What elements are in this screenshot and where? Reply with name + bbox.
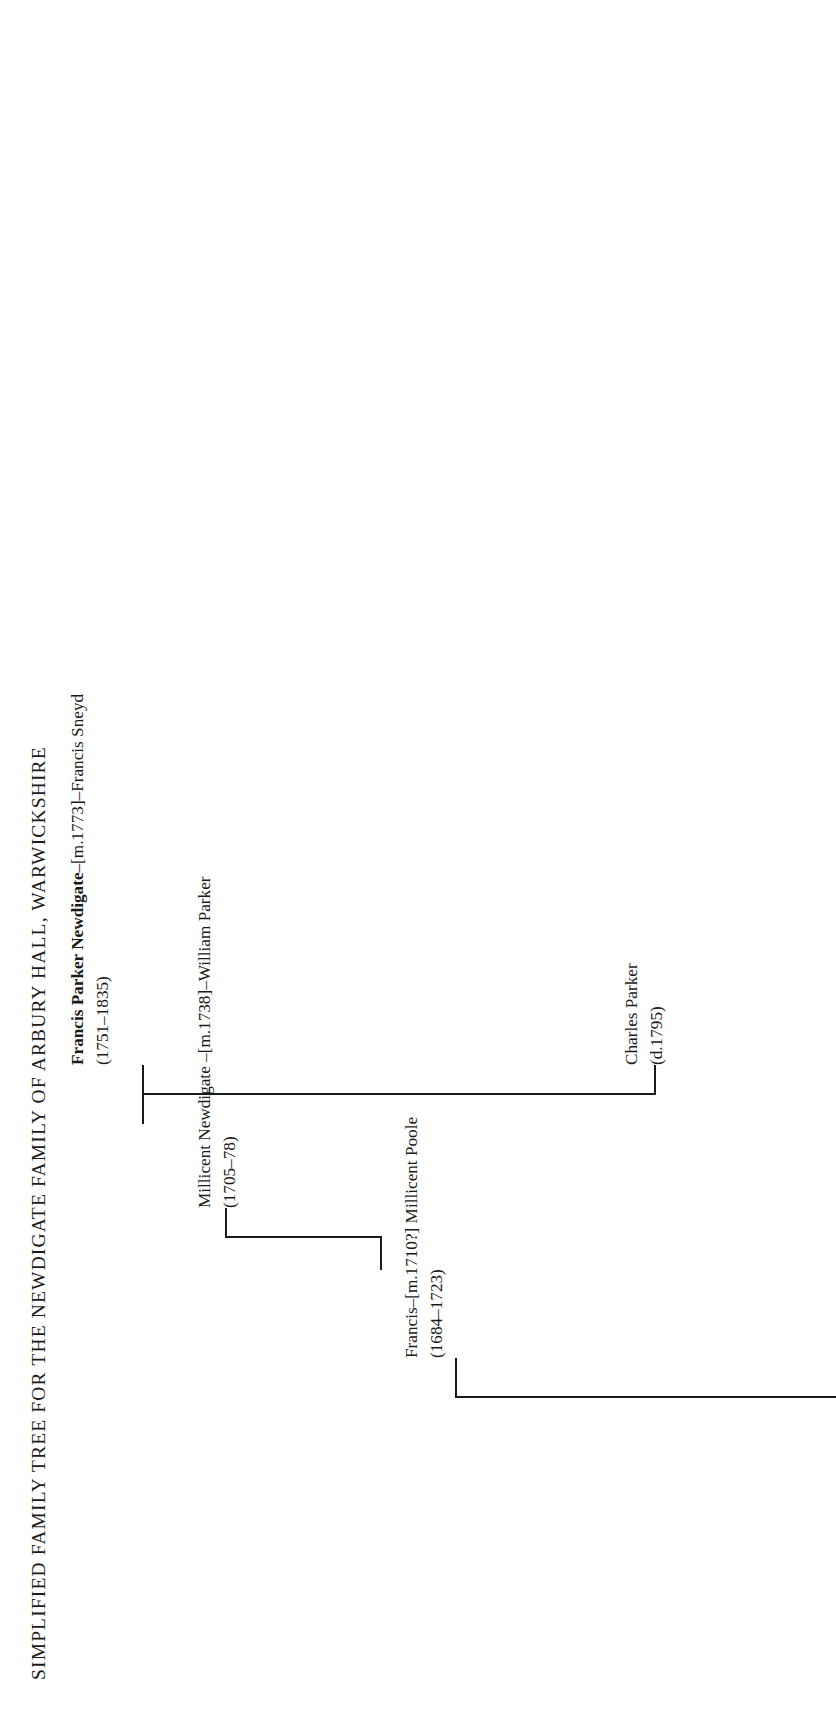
person-millicent-newdigate: Millicent Newdigate –[m.1738]–William Pa… <box>193 876 241 1208</box>
connector-millicent-stem <box>142 1095 144 1124</box>
family-tree-canvas: SIMPLIFIED FAMILY TREE FOR THE NEWDIGATE… <box>0 0 836 1718</box>
person-dates: (1684–1723) <box>425 1117 448 1358</box>
connector-millicent-children-spine <box>142 1093 654 1095</box>
person-dates: (1751–1835) <box>91 694 114 1065</box>
connector-francis-child-spine <box>225 1236 382 1238</box>
person-dates: (d.1795) <box>645 963 668 1065</box>
connector-to-francis-parker-newdigate <box>142 1065 144 1095</box>
person-name: Millicent Newdigate –[m.1738]–William Pa… <box>193 876 216 1208</box>
family-tree-rotated-canvas: SIMPLIFIED FAMILY TREE FOR THE NEWDIGATE… <box>0 0 836 1718</box>
connector-richard2-children-spine <box>455 1396 836 1398</box>
person-name: Charles Parker <box>620 963 643 1065</box>
person-francis: Francis–[m.1710?] Millicent Poole (1684–… <box>400 1117 448 1358</box>
person-dates: (1705–78) <box>218 876 241 1208</box>
person-name: Francis Parker Newdigate–[m.1773]–Franci… <box>66 694 89 1065</box>
connector-to-charles-parker <box>654 1065 656 1095</box>
person-francis-parker-newdigate: Francis Parker Newdigate–[m.1773]–Franci… <box>66 694 114 1065</box>
person-charles-parker: Charles Parker (d.1795) <box>620 963 668 1065</box>
connector-to-francis <box>455 1358 457 1398</box>
connector-francis-stem <box>380 1238 382 1270</box>
page-title: SIMPLIFIED FAMILY TREE FOR THE NEWDIGATE… <box>28 746 50 1680</box>
person-name: Francis–[m.1710?] Millicent Poole <box>400 1117 423 1358</box>
connector-to-millicent-newdigate <box>225 1208 227 1238</box>
